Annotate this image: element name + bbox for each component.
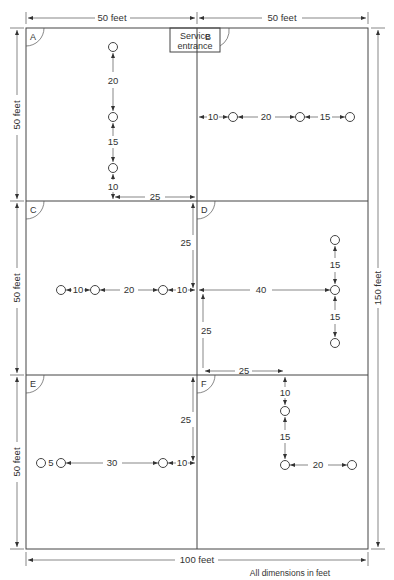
left-dimension-3: 50 feet: [11, 447, 22, 476]
dim-e-second: 30: [107, 457, 118, 468]
top-right-dimension: 50 feet: [267, 12, 296, 23]
dim-e-third: 10: [177, 457, 188, 468]
room-e-sprinklers: 5 30 10 25: [37, 377, 196, 468]
dim-f-mid: 15: [280, 431, 291, 442]
top-left-dimension: 50 feet: [97, 12, 126, 23]
room-c-sprinklers: 10 20 10 25: [57, 203, 196, 295]
dim-d-lower: 15: [330, 311, 341, 322]
dim-d-horizontal: 40: [256, 284, 267, 295]
dim-e-first: 5: [48, 457, 53, 468]
room-b-sprinklers: 10 20 15: [199, 111, 355, 122]
right-dimension: 150 feet: [372, 270, 383, 305]
dim-e-vertical: 25: [180, 414, 191, 425]
room-label-d: D: [201, 205, 208, 215]
door-arc-b: [220, 28, 229, 46]
service-entrance-line2: entrance: [177, 41, 212, 51]
dim-d-upper: 15: [330, 259, 341, 270]
room-label-b: B: [205, 32, 211, 42]
dim-b-second: 20: [261, 111, 272, 122]
room-label-e: E: [30, 379, 36, 389]
dim-b-third: 15: [320, 111, 331, 122]
dim-a-wall: 25: [150, 191, 161, 202]
dim-a-top: 20: [108, 75, 119, 86]
room-label-a: A: [30, 32, 36, 42]
dim-c-vertical: 25: [180, 237, 191, 248]
dim-c-second: 20: [124, 284, 135, 295]
dim-c-third: 10: [177, 284, 188, 295]
dim-f-top: 10: [280, 387, 291, 398]
footnote: All dimensions in feet: [250, 568, 331, 578]
sprinkler: [109, 164, 118, 173]
left-dimension-2: 50 feet: [11, 273, 22, 302]
room-f-sprinklers: 10 15 20: [280, 377, 357, 470]
dim-f-right: 20: [313, 459, 324, 470]
dim-c-first: 10: [73, 284, 84, 295]
sprinkler: [109, 113, 118, 122]
dim-b-first: 10: [208, 111, 219, 122]
room-a-sprinklers: 20 15 10 25: [108, 43, 195, 203]
sprinkler: [109, 43, 118, 52]
bottom-dimension: 100 feet: [180, 554, 215, 565]
dim-d-right: 25: [239, 365, 250, 376]
dim-d-down: 25: [201, 325, 212, 336]
room-d-sprinklers: 40 15 15 25 25: [199, 236, 340, 377]
dim-a-mid: 15: [108, 136, 119, 147]
floor-plan-diagram: Service entrance A B C D E F 50 feet 50 …: [0, 0, 394, 580]
room-label-c: C: [30, 205, 37, 215]
room-label-f: F: [201, 379, 207, 389]
dim-a-bottom: 10: [108, 181, 119, 192]
left-dimension-1: 50 feet: [11, 100, 22, 129]
